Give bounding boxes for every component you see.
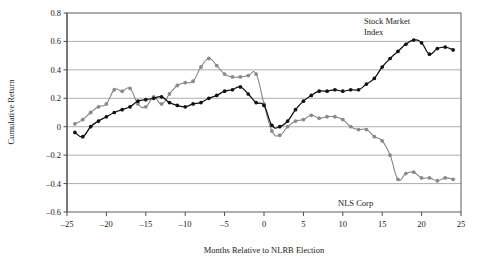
x-tick-label: 25 <box>457 219 466 229</box>
data-point <box>404 42 408 46</box>
data-point <box>183 105 187 109</box>
annotation-line-2: Index <box>364 27 384 37</box>
data-point <box>270 123 274 127</box>
data-point <box>144 98 148 102</box>
data-point <box>294 108 298 112</box>
data-point <box>372 77 376 81</box>
data-point <box>191 79 195 83</box>
data-point <box>443 176 447 180</box>
data-point <box>97 105 101 109</box>
data-point <box>128 86 132 90</box>
data-point <box>333 88 337 92</box>
data-point <box>81 135 85 139</box>
data-point <box>396 50 400 54</box>
x-tick-label: 5 <box>301 219 305 229</box>
y-axis-tick-labels: –0.6–0.4–0.200.20.40.60.8 <box>45 8 62 217</box>
data-point <box>270 129 274 133</box>
data-point <box>428 52 432 56</box>
data-point <box>357 88 361 92</box>
data-point <box>349 125 353 129</box>
data-point <box>317 89 321 93</box>
data-point <box>128 105 132 109</box>
data-point <box>294 119 298 123</box>
data-point <box>412 170 416 174</box>
data-point <box>73 131 77 135</box>
data-point <box>420 176 424 180</box>
data-point <box>105 115 109 119</box>
data-point <box>191 102 195 106</box>
data-point <box>207 57 211 61</box>
data-point <box>436 47 440 51</box>
data-point <box>254 101 258 105</box>
data-point <box>262 104 266 108</box>
y-tick-label: –0.2 <box>45 150 61 160</box>
data-point <box>239 85 243 89</box>
chart-container: –0.6–0.4–0.200.20.40.60.8 –25–20–15–10–5… <box>0 0 477 263</box>
data-point <box>254 72 258 76</box>
data-point <box>412 38 416 42</box>
data-point <box>341 89 345 93</box>
y-tick-label: –0.4 <box>45 179 62 189</box>
data-point <box>357 128 361 132</box>
data-point <box>97 119 101 123</box>
data-point <box>286 119 290 123</box>
data-point <box>404 172 408 176</box>
data-point <box>246 92 250 96</box>
data-point <box>317 116 321 120</box>
data-point <box>81 118 85 122</box>
x-tick-label: 10 <box>339 219 348 229</box>
data-point <box>349 88 353 92</box>
annotation-line-1: NLS Corp <box>338 198 373 208</box>
data-point <box>420 41 424 45</box>
x-axis-tick-labels: –25–20–15–10–50510152025 <box>60 219 466 229</box>
data-point <box>215 64 219 68</box>
data-point <box>112 88 116 92</box>
x-tick-label: 15 <box>378 219 387 229</box>
data-point <box>396 177 400 181</box>
data-point <box>175 84 179 88</box>
data-point <box>207 96 211 100</box>
data-point <box>105 102 109 106</box>
data-point <box>223 89 227 93</box>
data-point <box>120 108 124 112</box>
y-axis-title: Cumulative Return <box>6 79 16 145</box>
data-point <box>223 72 227 76</box>
data-point <box>309 94 313 98</box>
data-point <box>246 74 250 78</box>
y-tick-label: 0.4 <box>50 65 61 75</box>
data-point <box>302 99 306 103</box>
data-point <box>451 48 455 52</box>
data-point <box>160 102 164 106</box>
y-tick-label: 0 <box>57 122 61 132</box>
data-point <box>199 101 203 105</box>
data-point <box>325 115 329 119</box>
x-axis-title: Months Relative to NLRB Election <box>204 245 325 255</box>
data-point <box>231 88 235 92</box>
data-point <box>199 65 203 69</box>
data-point <box>309 113 313 117</box>
data-point <box>183 81 187 85</box>
data-point <box>231 75 235 79</box>
data-point <box>278 133 282 137</box>
y-tick-label: –0.6 <box>45 207 61 217</box>
data-point <box>380 65 384 69</box>
data-point <box>215 94 219 98</box>
data-point <box>168 92 172 96</box>
x-tick-label: –25 <box>60 219 74 229</box>
data-point <box>160 95 164 99</box>
data-point <box>144 105 148 109</box>
data-point <box>341 118 345 122</box>
x-tick-label: –10 <box>178 219 192 229</box>
data-point <box>302 118 306 122</box>
data-point <box>388 153 392 157</box>
data-point <box>380 139 384 143</box>
data-point <box>443 45 447 49</box>
data-point <box>428 176 432 180</box>
data-point <box>136 99 140 103</box>
x-tick-label: –20 <box>99 219 113 229</box>
y-tick-label: 0.6 <box>50 36 61 46</box>
x-tick-label: –15 <box>138 219 152 229</box>
data-point <box>325 89 329 93</box>
data-point <box>120 89 124 93</box>
data-point <box>278 125 282 129</box>
